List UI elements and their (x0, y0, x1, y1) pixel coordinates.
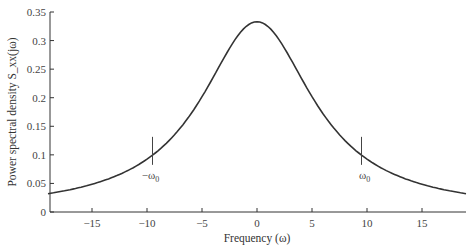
y-tick-label: 0.25 (27, 63, 47, 75)
psd-chart: 00.050.10.150.20.250.30.35 −15−10−505101… (0, 0, 471, 250)
psd-curve (48, 22, 466, 194)
axes (50, 12, 466, 212)
x-tick-label: 15 (417, 217, 429, 229)
omega0-annotations: −ω0ω0 (142, 137, 370, 184)
omega0-label: −ω0 (142, 169, 159, 184)
y-tick-label: 0.2 (32, 92, 46, 104)
y-tick-label: 0.15 (27, 120, 47, 132)
y-tick-label: 0.3 (32, 35, 46, 47)
omega0-label: ω0 (359, 169, 370, 184)
x-tick-label: −15 (83, 217, 101, 229)
x-tick-label: −5 (196, 217, 208, 229)
y-axis-label: Power spectral density S_xx(jω) (6, 37, 19, 186)
x-tick-label: 0 (254, 217, 260, 229)
x-tick-label: 5 (309, 217, 315, 229)
y-tick-label: 0.35 (27, 6, 47, 18)
y-tick-label: 0.05 (27, 177, 47, 189)
x-tick-label: −10 (138, 217, 156, 229)
x-tick-label: 10 (362, 217, 374, 229)
y-tick-label: 0.1 (32, 149, 46, 161)
x-axis-label: Frequency (ω) (224, 232, 291, 245)
y-tick-label: 0 (41, 206, 47, 218)
x-axis-ticks: −15−10−5051015 (83, 208, 428, 229)
